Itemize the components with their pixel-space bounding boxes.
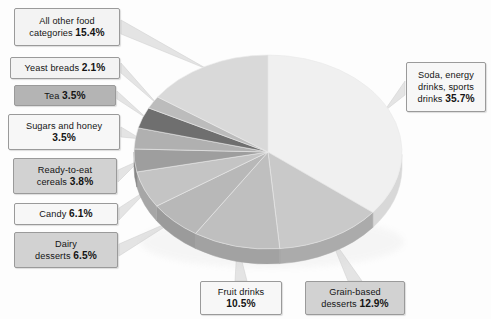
callout-dairy-desserts[interactable]: Dairy desserts 6.5%: [14, 232, 118, 268]
callout-all-other-food-categories[interactable]: All other food categories 15.4%: [14, 8, 120, 46]
callout-candy[interactable]: Candy 6.1%: [14, 203, 118, 225]
callout-percent: 6.5%: [73, 250, 97, 261]
callout-text: Ready-to-eat cereals 3.8%: [37, 164, 94, 188]
callout-percent: 3.5%: [52, 132, 76, 143]
callout-label-line1: Fruit drinks: [218, 287, 265, 297]
callout-percent: 2.1%: [82, 62, 106, 73]
callout-text: Dairy desserts 6.5%: [35, 238, 97, 262]
callout-text: Tea 3.5%: [44, 90, 85, 102]
callout-sugars-and-honey[interactable]: Sugars and honey 3.5%: [8, 114, 120, 150]
callout-yeast-breads[interactable]: Yeast breads 2.1%: [10, 57, 120, 79]
callout-text: Soda, energy drinks, sports drinks 35.7%: [417, 69, 474, 105]
callout-text: Fruit drinks 10.5%: [218, 286, 265, 310]
pie-chart-figure: Soda, energy drinks, sports drinks 35.7%…: [0, 0, 491, 319]
callout-percent: 3.8%: [70, 176, 94, 187]
leader-line-yeast-breads: [121, 63, 157, 104]
callout-percent: 35.7%: [445, 93, 474, 104]
callout-label-line1: Candy: [39, 209, 66, 219]
callout-ready-to-eat-cereals[interactable]: Ready-to-eat cereals 3.8%: [13, 158, 117, 194]
callout-label-line2: desserts: [35, 251, 71, 261]
leader-line-tea: [117, 91, 148, 119]
callout-text: Sugars and honey 3.5%: [26, 120, 102, 144]
callout-percent: 10.5%: [226, 298, 255, 309]
callout-label-line1: All other food: [39, 16, 95, 26]
callout-label-line3: drinks: [417, 94, 442, 104]
callout-label-line1: Grain-based: [329, 287, 381, 297]
callout-label-line1: Sugars and honey: [26, 121, 102, 131]
callout-soda-energy-sports-drinks[interactable]: Soda, energy drinks, sports drinks 35.7%: [406, 62, 486, 112]
callout-label-line1: Soda, energy: [418, 70, 474, 80]
callout-text: Yeast breads 2.1%: [25, 62, 106, 74]
callout-tea[interactable]: Tea 3.5%: [14, 85, 116, 106]
callout-text: Grain-based desserts 12.9%: [321, 286, 389, 310]
callout-text: All other food categories 15.4%: [29, 15, 104, 39]
callout-fruit-drinks[interactable]: Fruit drinks 10.5%: [200, 281, 282, 315]
pie-top-faces: Soda, energy drinks, sports drinks 35.7%…: [134, 55, 402, 249]
leader-line-all-other-food-categories: [121, 20, 208, 70]
callout-label-line2: categories: [29, 28, 72, 38]
callout-percent: 15.4%: [75, 27, 104, 38]
callout-label-line1: Tea: [44, 91, 59, 101]
callout-text: Candy 6.1%: [39, 208, 92, 220]
callout-label-line1: Yeast breads: [25, 63, 80, 73]
callout-grain-based-desserts[interactable]: Grain-based desserts 12.9%: [305, 281, 405, 315]
callout-percent: 12.9%: [359, 298, 388, 309]
callout-label-line2: cereals: [37, 177, 67, 187]
callout-percent: 6.1%: [69, 208, 93, 219]
callout-label-line2: drinks, sports: [418, 82, 474, 92]
callout-percent: 3.5%: [62, 90, 86, 101]
callout-label-line2: desserts: [321, 299, 357, 309]
callout-label-line1: Dairy: [55, 239, 77, 249]
callout-label-line1: Ready-to-eat: [38, 165, 92, 175]
